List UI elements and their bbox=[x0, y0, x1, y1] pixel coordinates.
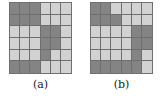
grid-cell bbox=[20, 50, 30, 62]
grid-cell bbox=[51, 38, 61, 50]
grid-cell bbox=[111, 3, 121, 15]
grid-cell bbox=[51, 26, 61, 38]
grid-cell bbox=[20, 3, 30, 15]
grid-cell bbox=[10, 3, 20, 15]
grid-cell bbox=[10, 61, 20, 73]
grid-cell bbox=[61, 61, 71, 73]
panel-container: (a) (b) bbox=[0, 0, 162, 91]
grid-cell bbox=[30, 38, 40, 50]
grid-cell bbox=[142, 15, 152, 27]
grid-cell bbox=[30, 61, 40, 73]
figure-panel-b: (b) bbox=[90, 2, 153, 91]
grid-a bbox=[9, 2, 72, 74]
grid-cell bbox=[61, 3, 71, 15]
grid-cell bbox=[101, 50, 111, 62]
grid-cell bbox=[20, 15, 30, 27]
grid-cell bbox=[51, 3, 61, 15]
grid-cell bbox=[41, 50, 51, 62]
grid-cell bbox=[111, 61, 121, 73]
grid-cell bbox=[122, 15, 132, 27]
grid-cell bbox=[51, 50, 61, 62]
grid-cell bbox=[122, 61, 132, 73]
grid-cell bbox=[20, 61, 30, 73]
grid-cell bbox=[91, 50, 101, 62]
grid-cell bbox=[142, 50, 152, 62]
grid-cell bbox=[132, 15, 142, 27]
grid-cell bbox=[61, 15, 71, 27]
grid-cell bbox=[41, 61, 51, 73]
grid-cell bbox=[142, 3, 152, 15]
grid-cell bbox=[101, 38, 111, 50]
grid-cell bbox=[132, 3, 142, 15]
figure-panel-a: (a) bbox=[9, 2, 72, 91]
grid-cell bbox=[91, 38, 101, 50]
grid-cell bbox=[142, 26, 152, 38]
grid-cell bbox=[132, 38, 142, 50]
grid-cell bbox=[132, 26, 142, 38]
grid-cell bbox=[101, 26, 111, 38]
grid-cell bbox=[111, 50, 121, 62]
grid-cell bbox=[41, 26, 51, 38]
grid-cell bbox=[41, 38, 51, 50]
grid-cell bbox=[20, 38, 30, 50]
grid-cell bbox=[101, 61, 111, 73]
grid-cell bbox=[30, 50, 40, 62]
grid-cell bbox=[111, 15, 121, 27]
grid-cell bbox=[30, 26, 40, 38]
grid-cell bbox=[132, 50, 142, 62]
grid-cell bbox=[101, 3, 111, 15]
grid-cell bbox=[61, 26, 71, 38]
grid-cell bbox=[51, 61, 61, 73]
grid-cell bbox=[142, 38, 152, 50]
grid-cell bbox=[10, 15, 20, 27]
grid-cell bbox=[122, 3, 132, 15]
grid-cell bbox=[61, 38, 71, 50]
grid-cell bbox=[30, 15, 40, 27]
grid-cell bbox=[111, 26, 121, 38]
grid-cell bbox=[132, 61, 142, 73]
grid-cell bbox=[101, 15, 111, 27]
figure-root: (a) (b) bbox=[0, 0, 162, 98]
grid-cell bbox=[10, 38, 20, 50]
grid-cell bbox=[122, 50, 132, 62]
grid-cell bbox=[122, 38, 132, 50]
grid-cell bbox=[91, 15, 101, 27]
grid-cell bbox=[41, 3, 51, 15]
caption-a: (a) bbox=[33, 78, 48, 91]
grid-cell bbox=[20, 26, 30, 38]
grid-b bbox=[90, 2, 153, 74]
grid-cell bbox=[30, 3, 40, 15]
grid-cell bbox=[111, 38, 121, 50]
caption-b: (b) bbox=[114, 78, 130, 91]
grid-cell bbox=[91, 61, 101, 73]
grid-cell bbox=[142, 61, 152, 73]
grid-cell bbox=[41, 15, 51, 27]
grid-cell bbox=[51, 15, 61, 27]
grid-cell bbox=[122, 26, 132, 38]
grid-cell bbox=[10, 50, 20, 62]
grid-cell bbox=[10, 26, 20, 38]
grid-cell bbox=[61, 50, 71, 62]
grid-cell bbox=[91, 26, 101, 38]
grid-cell bbox=[91, 3, 101, 15]
